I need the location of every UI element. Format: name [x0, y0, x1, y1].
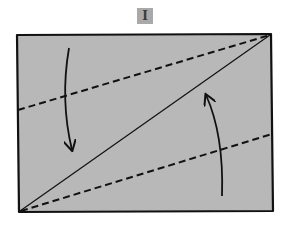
- fold-diagram: [0, 0, 290, 225]
